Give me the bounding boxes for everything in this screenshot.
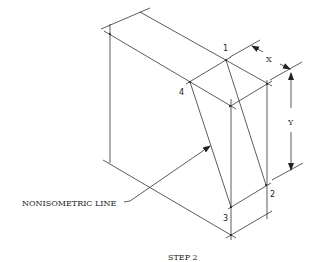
point-4-label: 4	[179, 88, 184, 97]
point-2-label: 2	[270, 190, 275, 199]
leader-line	[124, 146, 210, 202]
isometric-box-diagram: 1 4 2 3 X Y NONISOMETRIC LINE STEP 2	[0, 0, 317, 262]
dimension-x-label: X	[266, 55, 272, 64]
dimension-y-label: Y	[287, 118, 294, 127]
point-3-label: 3	[223, 214, 228, 223]
point-1-label: 1	[223, 44, 228, 53]
cut-face	[186, 57, 271, 209]
callout-label: NONISOMETRIC LINE	[22, 199, 116, 208]
vertex-markers	[109, 33, 268, 236]
figure-caption: STEP 2	[168, 253, 198, 262]
